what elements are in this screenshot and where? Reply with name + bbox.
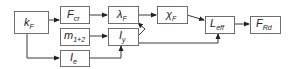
edge-Iy-Leff — [138, 34, 218, 43]
node-Leff: Leff — [206, 17, 235, 34]
node-Fcr: Fcr — [61, 7, 90, 24]
node-m12: m1+2 — [61, 29, 90, 46]
edge-chiF-Leff — [187, 15, 204, 20]
node-chiF: χF — [158, 7, 188, 24]
node-FRd: FRd — [251, 17, 281, 34]
node-Ie: Ie — [61, 51, 90, 67]
node-kF: kF — [15, 12, 49, 34]
edge-Ie-Iy — [89, 46, 121, 58]
node-Iy: Iy — [109, 29, 139, 46]
edge-kF-Ie — [27, 33, 59, 58]
flow-diagram: kF Fcr m1+2 Ie λF Iy χF Leff FRd — [0, 0, 292, 69]
edge-Iy-lamF — [138, 23, 145, 36]
node-lambdaF: λF — [109, 7, 139, 24]
